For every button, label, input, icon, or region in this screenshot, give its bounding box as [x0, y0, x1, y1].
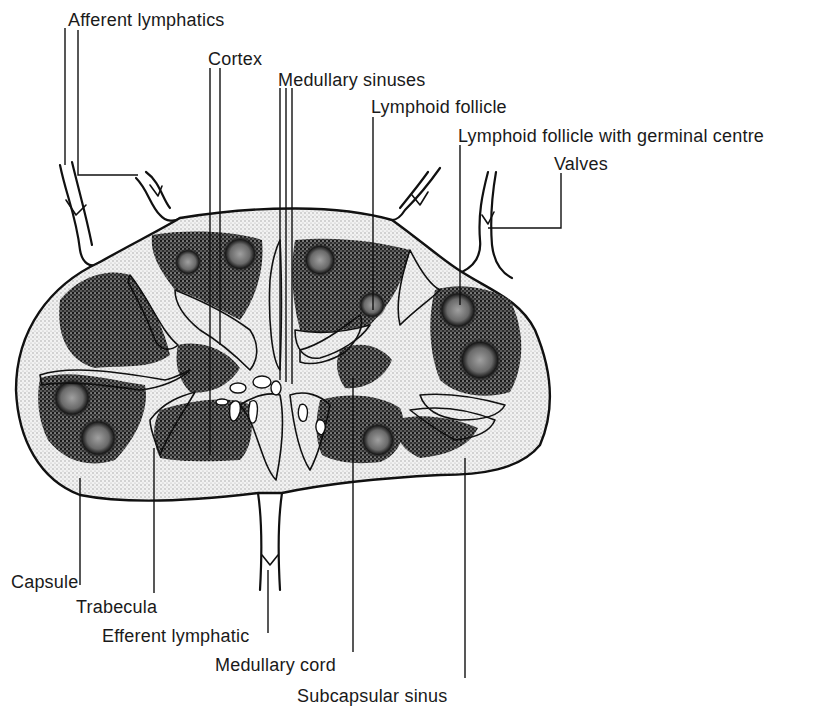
label-valves: Valves — [554, 155, 608, 173]
label-medullary-cord: Medullary cord — [215, 656, 336, 674]
label-capsule: Capsule — [11, 573, 78, 591]
label-efferent-lymphatic: Efferent lymphatic — [102, 627, 249, 645]
label-medullary-sinuses: Medullary sinuses — [278, 71, 425, 89]
efferent-lymphatic-vessel — [258, 493, 282, 590]
label-afferent-lymphatics: Afferent lymphatics — [68, 11, 225, 29]
label-subcapsular-sinus: Subcapsular sinus — [297, 687, 448, 705]
label-cortex: Cortex — [208, 50, 262, 68]
label-lymphoid-follicle-germinal-centre: Lymphoid follicle with germinal centre — [458, 127, 764, 145]
label-trabecula: Trabecula — [76, 598, 157, 616]
label-lymphoid-follicle: Lymphoid follicle — [371, 98, 507, 116]
